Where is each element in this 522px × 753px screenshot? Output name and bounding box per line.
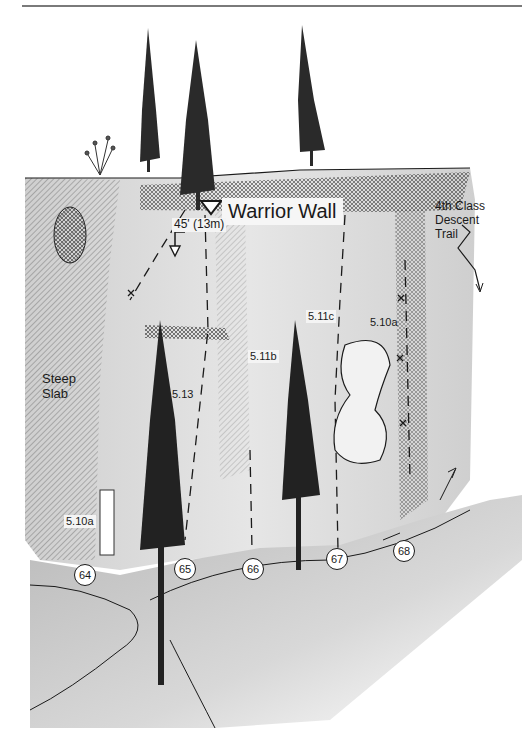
topo-illustration — [0, 0, 522, 753]
height-note: 45' (13m) — [172, 218, 226, 232]
descent-label-line: Descent — [435, 214, 485, 228]
route-number-66: 66 — [242, 558, 264, 580]
dark-buttress-right — [395, 210, 428, 520]
area-label-line: Slab — [42, 387, 76, 402]
route-number-67: 67 — [326, 548, 348, 570]
route-number-64: 64 — [74, 564, 96, 586]
shrub-icon — [85, 136, 115, 175]
grade-66: 5.11b — [248, 350, 279, 363]
route-number-68: 68 — [393, 540, 415, 562]
grade-65: 5.13 — [172, 388, 193, 401]
area-label: Steep Slab — [42, 372, 76, 402]
dark-column-mid — [215, 210, 250, 480]
descent-label: 4th Class Descent Trail — [435, 200, 485, 241]
grade-64: 5.10a — [64, 515, 96, 528]
grade-67: 5.11c — [306, 310, 336, 323]
wall-title: Warrior Wall — [222, 198, 343, 225]
pillar-64 — [100, 490, 114, 555]
boulder — [54, 207, 86, 263]
descent-label-line: Trail — [435, 228, 485, 242]
route-number-65: 65 — [174, 558, 196, 580]
grade-68: 5.10a — [370, 316, 398, 329]
descent-label-line: 4th Class — [435, 200, 485, 214]
area-label-line: Steep — [42, 372, 76, 387]
